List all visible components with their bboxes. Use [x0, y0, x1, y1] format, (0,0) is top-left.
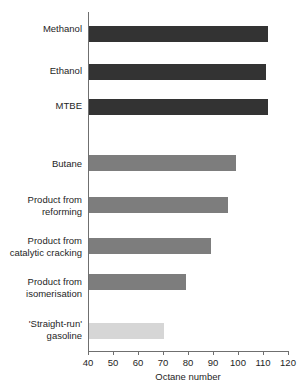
bar-category-label: Methanol [0, 23, 82, 35]
bar-row: Butane [0, 138, 297, 180]
bar-category-label-line1: Product from [0, 235, 82, 247]
bar-category-label: MTBE [0, 100, 82, 112]
bar-row: Methanol [0, 12, 297, 54]
bar-mtbe [89, 99, 268, 115]
bar-category-label: Product from isomerisation [0, 276, 82, 299]
bar-product-from-reforming [89, 197, 228, 213]
bar-row: Ethanol [0, 54, 297, 96]
x-tick-mark [88, 351, 89, 355]
bar-straight-run-gasoline [89, 323, 164, 339]
x-tick-mark [138, 351, 139, 355]
octane-number-bar-chart: Methanol Ethanol MTBE Butane [0, 0, 297, 389]
bar-category-label: Ethanol [0, 65, 82, 77]
bar-category-label-line1: Ethanol [0, 65, 82, 77]
bar-product-from-isomerisation [89, 274, 186, 290]
x-tick-mark [238, 351, 239, 355]
bar-methanol [89, 26, 268, 42]
x-tick-mark [113, 351, 114, 355]
bar-row: MTBE [0, 96, 297, 138]
bar-row: Product from catalytic cracking [0, 222, 297, 264]
x-tick-mark [188, 351, 189, 355]
bar-category-label-line1: 'Straight-run' [0, 318, 82, 330]
bar-category-label-line2: reforming [0, 206, 82, 218]
bar-category-label-line1: Butane [0, 158, 82, 170]
bar-row: Product from reforming [0, 180, 297, 222]
bar-category-label-line2: isomerisation [0, 288, 82, 300]
bar-category-label: Butane [0, 158, 82, 170]
bar-category-label: 'Straight-run' gasoline [0, 318, 82, 341]
bar-category-label-line1: MTBE [0, 100, 82, 112]
bar-category-label: Product from reforming [0, 194, 82, 217]
bar-category-label-line1: Product from [0, 276, 82, 288]
x-tick-mark [288, 351, 289, 355]
plot-area: Methanol Ethanol MTBE Butane [0, 0, 297, 351]
bar-category-label-line1: Product from [0, 194, 82, 206]
bar-category-label-line2: gasoline [0, 330, 82, 342]
x-axis-title: Octane number [88, 371, 288, 382]
x-tick-mark [163, 351, 164, 355]
bar-row: 'Straight-run' gasoline [0, 306, 297, 351]
bar-row: Product from isomerisation [0, 264, 297, 306]
x-tick-mark [263, 351, 264, 355]
bar-butane [89, 155, 236, 171]
x-tick-mark [213, 351, 214, 355]
bar-category-label: Product from catalytic cracking [0, 235, 82, 258]
bar-category-label-line1: Methanol [0, 23, 82, 35]
x-tick-label: 120 [268, 357, 297, 368]
bar-category-label-line2: catalytic cracking [0, 247, 82, 259]
bar-ethanol [89, 64, 266, 80]
bar-product-from-catalytic-cracking [89, 238, 211, 254]
